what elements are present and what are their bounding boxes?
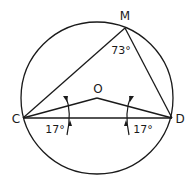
angle-label-ocd: 17° (45, 123, 65, 136)
segment-od (97, 98, 172, 118)
label-m: M (120, 9, 130, 23)
angle-label-odc: 17° (133, 123, 153, 136)
angle-label-cmd: 73° (111, 44, 131, 57)
label-d: D (175, 112, 184, 126)
geometry-diagram: M C D O 73° 17° 17° (0, 0, 191, 190)
label-c: C (12, 112, 20, 126)
label-o: O (93, 82, 102, 96)
